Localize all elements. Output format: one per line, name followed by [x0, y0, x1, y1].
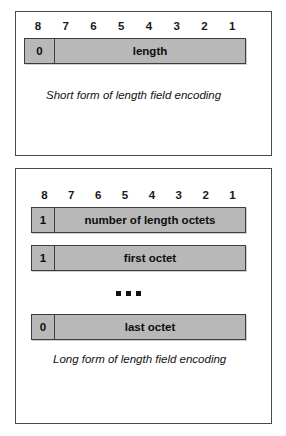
- length-field-cell: length: [55, 39, 245, 63]
- bit-number-7: 7: [58, 187, 85, 203]
- bit-number-7: 7: [52, 18, 80, 34]
- bit8-flag-cell: 1: [32, 208, 55, 232]
- bit-number-5: 5: [112, 187, 139, 203]
- long-form-caption: Long form of length field encoding: [53, 352, 243, 366]
- number-of-length-octets-label: number of length octets: [85, 214, 216, 226]
- octet-bar-number-of-length-octets: 1 number of length octets: [31, 207, 246, 233]
- bit-number-3: 3: [165, 187, 192, 203]
- bit-number-8: 8: [31, 187, 58, 203]
- bit8-flag-cell: 0: [25, 39, 55, 63]
- bit-number-4: 4: [135, 18, 163, 34]
- bit-number-ruler-long: 87654321: [31, 187, 246, 203]
- bit-number-2: 2: [192, 187, 219, 203]
- bit8-flag-value: 1: [40, 252, 46, 264]
- bit-number-2: 2: [191, 18, 219, 34]
- first-octet-cell: first octet: [55, 246, 245, 270]
- bit8-flag-value: 0: [36, 45, 42, 57]
- octet-bar-first-octet: 1 first octet: [31, 245, 246, 271]
- ellipsis-square: [136, 291, 141, 296]
- octet-bar-last-octet: 0 last octet: [31, 314, 246, 340]
- bit8-flag-value: 0: [40, 321, 46, 333]
- bit-number-6: 6: [85, 187, 112, 203]
- bit8-flag-value: 1: [40, 214, 46, 226]
- first-octet-label: first octet: [124, 252, 176, 264]
- bit8-flag-cell: 0: [32, 315, 55, 339]
- bit-number-5: 5: [107, 18, 135, 34]
- bit-number-1: 1: [219, 187, 246, 203]
- ellipsis-square: [126, 291, 131, 296]
- bit-number-8: 8: [24, 18, 52, 34]
- short-form-caption: Short form of length field encoding: [46, 88, 236, 102]
- bit-number-1: 1: [218, 18, 246, 34]
- continuation-ellipsis: [116, 291, 141, 296]
- number-of-length-octets-cell: number of length octets: [55, 208, 245, 232]
- bit-number-ruler-short: 87654321: [24, 18, 246, 34]
- bit-number-4: 4: [139, 187, 166, 203]
- ellipsis-square: [116, 291, 121, 296]
- last-octet-label: last octet: [125, 321, 176, 333]
- bit8-flag-cell: 1: [32, 246, 55, 270]
- last-octet-cell: last octet: [55, 315, 245, 339]
- bit-number-6: 6: [80, 18, 108, 34]
- octet-bar-length: 0 length: [24, 38, 246, 64]
- short-form-panel: 87654321 0 length Short form of length f…: [15, 11, 272, 156]
- length-field-label: length: [133, 45, 168, 57]
- bit-number-3: 3: [163, 18, 191, 34]
- long-form-panel: 87654321 1 number of length octets 1 fir…: [15, 168, 272, 424]
